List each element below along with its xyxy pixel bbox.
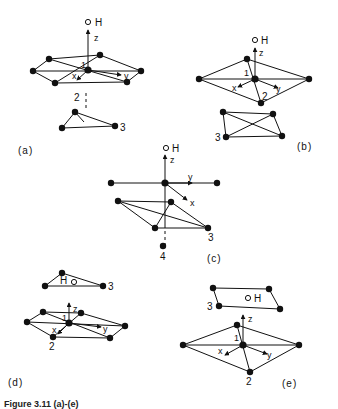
panel-a-labels: H z x y 1 2 3 (a) bbox=[18, 17, 129, 156]
panel-d-x-label: x bbox=[52, 325, 57, 335]
panel-a-z-label: z bbox=[94, 33, 99, 43]
panel-a-x-label: x bbox=[72, 71, 77, 81]
panel-a-atoms bbox=[30, 52, 144, 131]
panel-b-atom-1-label: 1 bbox=[244, 68, 249, 78]
panel-b-z-label: z bbox=[259, 48, 264, 58]
panel-e-h-label: H bbox=[254, 293, 261, 304]
panel-c-lower-quad bbox=[118, 201, 208, 228]
panel-c-caption: (c) bbox=[207, 253, 222, 264]
panel-e-atom-2-label: 2 bbox=[246, 376, 252, 387]
panel-c-atom-3-label: 3 bbox=[208, 232, 214, 243]
panel-a-caption: (a) bbox=[18, 145, 33, 156]
panel-e-y-label: y bbox=[267, 350, 272, 360]
panel-e-atoms bbox=[180, 285, 302, 375]
panel-c-atom-4-label: 4 bbox=[160, 251, 166, 262]
panel-a-lower-triangle bbox=[62, 112, 115, 128]
panel-b-x-label: x bbox=[232, 83, 237, 93]
panel-a-y-label: y bbox=[124, 71, 129, 81]
panel-a-atom-2-label: 2 bbox=[74, 92, 80, 103]
panel-d-z-label: z bbox=[73, 304, 78, 314]
panel-b-h-label: H bbox=[261, 35, 268, 46]
panel-d-caption: (d) bbox=[8, 377, 23, 388]
panel-a-h-label: H bbox=[95, 17, 102, 28]
panel-d-atom-2-label: 2 bbox=[49, 341, 55, 352]
panel-b bbox=[196, 37, 312, 140]
panel-c-x-label: x bbox=[190, 198, 195, 208]
panel-b-atom-3-label: 3 bbox=[215, 132, 221, 143]
panel-e-atom-1-label: 1 bbox=[234, 333, 239, 343]
figure-caption: Figure 3.11 (a)-(e) bbox=[4, 399, 79, 409]
panel-e-y-axis bbox=[243, 345, 267, 354]
panel-e-caption: (e) bbox=[282, 378, 297, 389]
panel-b-atoms bbox=[196, 56, 312, 140]
panel-e-layer-edges bbox=[183, 325, 299, 372]
panel-b-atom-2-label: 2 bbox=[262, 91, 268, 102]
panel-b-labels: H z x y 1 2 3 (b) bbox=[215, 35, 312, 152]
panel-a-atom-3-label: 3 bbox=[120, 122, 126, 133]
panel-d-y-label: y bbox=[103, 324, 108, 334]
panel-e-x-label: x bbox=[218, 346, 223, 356]
panel-d-layer-edges bbox=[27, 312, 125, 338]
panel-b-y-label: y bbox=[276, 84, 281, 94]
panel-e-z-label: z bbox=[248, 314, 253, 324]
panel-b-caption: (b) bbox=[297, 141, 312, 152]
panel-b-y-axis bbox=[255, 79, 278, 88]
panel-c bbox=[108, 145, 220, 249]
panel-c-oxygen-icon bbox=[163, 145, 168, 150]
panel-e-oxygen-icon bbox=[245, 295, 250, 300]
panel-d-atom-1-label: 1 bbox=[62, 313, 67, 323]
panel-d-h-label: H bbox=[60, 275, 67, 286]
panel-d-oxygen-icon bbox=[71, 279, 76, 284]
panel-c-y-label: y bbox=[188, 172, 193, 182]
panel-a-atom-1-label: 1 bbox=[81, 60, 86, 70]
panel-a-oxygen-icon bbox=[85, 19, 90, 24]
panel-c-z-label: z bbox=[170, 155, 175, 165]
panel-c-x-axis bbox=[165, 183, 187, 200]
panel-c-h-label: H bbox=[172, 143, 179, 154]
panel-e-atom-3-label: 3 bbox=[207, 301, 213, 312]
panel-e bbox=[180, 285, 302, 375]
panel-d-atom-3-label: 3 bbox=[108, 281, 114, 292]
panel-b-oxygen-icon bbox=[252, 37, 257, 42]
